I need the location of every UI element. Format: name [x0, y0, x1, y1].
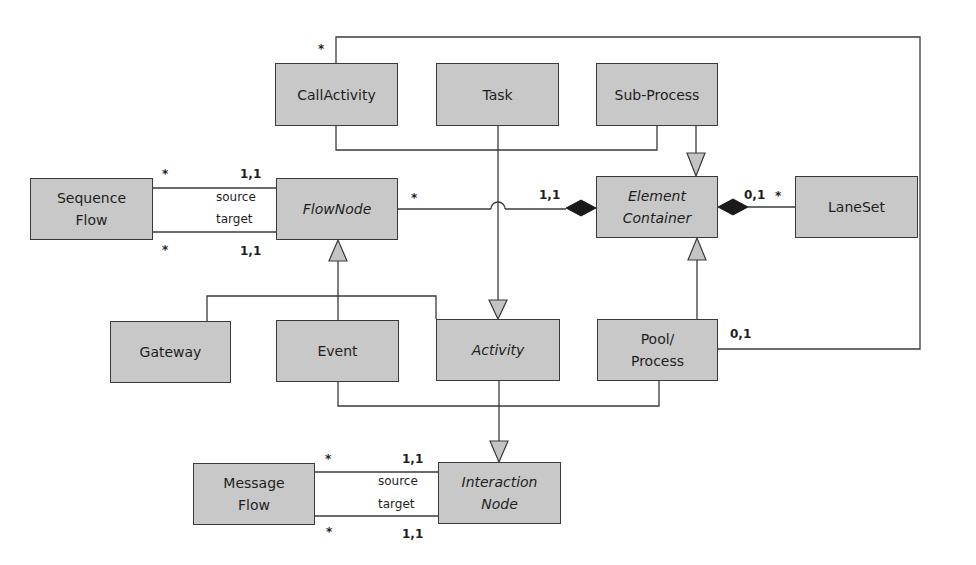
generalization-arrowhead: [489, 300, 507, 319]
role-label: target: [216, 212, 253, 226]
generalization-arrowhead: [329, 240, 347, 261]
class-sequence-flow: Sequence Flow: [30, 178, 153, 240]
multiplicity-label: 1,1: [539, 188, 560, 202]
class-label: Event: [317, 340, 357, 362]
class-pool-process: Pool/ Process: [597, 319, 718, 381]
multiplicity-label: 0,1: [744, 188, 765, 202]
class-lane-set: LaneSet: [795, 176, 918, 238]
class-call-activity: CallActivity: [275, 63, 398, 126]
class-label: Pool/ Process: [631, 328, 684, 372]
multiplicity-label: *: [326, 525, 332, 539]
class-label: Message Flow: [223, 472, 284, 516]
role-label: source: [378, 474, 418, 488]
class-event: Event: [276, 320, 399, 382]
class-element-container: Element Container: [596, 176, 718, 238]
class-label: Activity: [472, 339, 525, 361]
multiplicity-label: 0,1: [730, 327, 751, 341]
class-label: Interaction Node: [462, 471, 538, 515]
class-label: Sequence Flow: [57, 187, 126, 231]
multiplicity-label: *: [162, 167, 168, 181]
class-label: LaneSet: [828, 196, 885, 218]
role-label: target: [378, 497, 415, 511]
generalization-arrowhead: [490, 441, 508, 462]
multiplicity-label: *: [325, 452, 331, 466]
multiplicity-label: 1,1: [240, 167, 261, 181]
generalization-arrowhead: [687, 153, 705, 176]
class-message-flow: Message Flow: [193, 463, 315, 525]
class-label: FlowNode: [303, 198, 372, 220]
class-flow-node: FlowNode: [276, 178, 398, 240]
generalization-arrowhead: [688, 238, 706, 260]
role-label: source: [216, 190, 256, 204]
class-label: Task: [482, 84, 512, 106]
multiplicity-label: *: [318, 42, 324, 56]
class-label: Sub-Process: [615, 84, 700, 106]
class-label: Gateway: [140, 341, 202, 363]
multiplicity-label: *: [775, 189, 781, 203]
multiplicity-label: *: [162, 243, 168, 257]
multiplicity-label: 1,1: [240, 244, 261, 258]
class-interaction-node: Interaction Node: [438, 462, 561, 524]
diagram-canvas: CallActivity Task Sub-Process Sequence F…: [0, 0, 976, 565]
class-label: Element Container: [623, 185, 691, 229]
multiplicity-label: *: [411, 191, 417, 205]
multiplicity-label: 1,1: [402, 527, 423, 541]
class-task: Task: [436, 63, 559, 126]
class-gateway: Gateway: [110, 321, 231, 383]
multiplicity-label: 1,1: [402, 452, 423, 466]
composition-diamond: [566, 200, 596, 216]
class-sub-process: Sub-Process: [596, 63, 718, 126]
class-label: CallActivity: [297, 84, 376, 106]
class-activity: Activity: [436, 319, 560, 381]
